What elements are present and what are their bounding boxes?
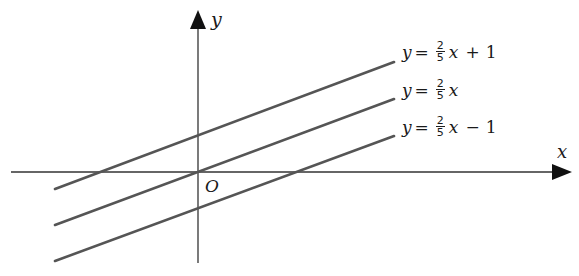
eq-var: x xyxy=(449,42,459,62)
line-plus-one xyxy=(55,62,394,189)
equation-label-plus-one: y = 2 5 x + 1 xyxy=(402,40,497,63)
fraction-denominator: 5 xyxy=(436,90,445,101)
eq-lhs: y xyxy=(402,80,412,100)
equation-label-origin: y = 2 5 x xyxy=(402,78,458,101)
fraction-denominator: 5 xyxy=(436,52,445,63)
eq-constant: 1 xyxy=(486,42,497,62)
fraction-denominator: 5 xyxy=(436,127,445,138)
diagram-canvas: y x O y = 2 5 x + 1 y = 2 5 x y = 2 5 x … xyxy=(0,0,579,276)
eq-equals: = xyxy=(415,117,429,137)
eq-fraction: 2 5 xyxy=(436,40,445,63)
eq-equals: = xyxy=(415,42,429,62)
y-axis-arrow-icon xyxy=(190,10,206,29)
eq-operator: − xyxy=(465,117,479,137)
eq-lhs: y xyxy=(402,117,412,137)
eq-fraction: 2 5 xyxy=(436,78,445,101)
line-through-origin xyxy=(55,99,394,225)
origin-label: O xyxy=(205,176,219,196)
x-axis-arrow-icon xyxy=(552,164,572,180)
eq-var: x xyxy=(449,117,459,137)
eq-operator: + xyxy=(465,42,479,62)
eq-lhs: y xyxy=(402,42,412,62)
eq-constant: 1 xyxy=(486,117,497,137)
y-axis-label: y xyxy=(211,8,222,30)
x-axis-label: x xyxy=(557,141,567,162)
eq-equals: = xyxy=(415,80,429,100)
line-minus-one xyxy=(55,136,394,261)
equation-label-minus-one: y = 2 5 x − 1 xyxy=(402,115,497,138)
eq-fraction: 2 5 xyxy=(436,115,445,138)
eq-var: x xyxy=(449,80,459,100)
